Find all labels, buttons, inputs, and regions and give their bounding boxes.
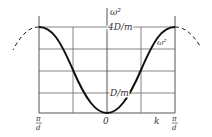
dispersion-diagram: ω² 4D/m ω² D/m 0 0 k π d π d (0, 0, 212, 137)
y-axis-label: ω² (110, 7, 121, 17)
quarter-value-label: D/m (109, 88, 129, 98)
dashed-continuation-right (175, 27, 200, 46)
max-value-label: 4D/m (107, 22, 133, 32)
curve-label: ω² (157, 38, 167, 47)
k-label: k (154, 116, 159, 126)
origin-label: 0 (103, 116, 109, 126)
right-pi-label: π (171, 115, 177, 123)
left-pi-label: π (35, 115, 41, 123)
left-d-label: d (36, 124, 41, 132)
dashed-continuation-left (13, 27, 39, 50)
right-d-label: d (172, 124, 177, 132)
